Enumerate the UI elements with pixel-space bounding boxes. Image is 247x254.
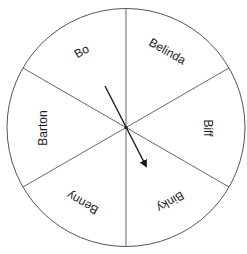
spinner-wheel: Bo Belinda Biff Binky Benny Barton [0,0,247,254]
segment-label-biff: Biff [201,119,215,137]
segment-label-barton: Barton [36,110,50,145]
hub [124,126,127,129]
